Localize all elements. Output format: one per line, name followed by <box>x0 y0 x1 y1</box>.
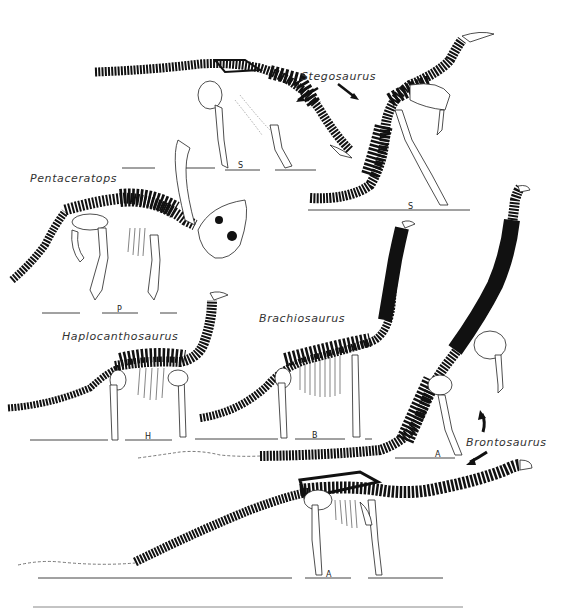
scale-letter-brontosaurus-standing: A <box>326 570 331 579</box>
skeleton-drawing <box>0 0 562 611</box>
scale-letter-pentaceratops: P <box>117 305 122 314</box>
pentaceratops-skeleton <box>12 140 247 313</box>
brontosaurus-skeleton-standing <box>18 460 532 578</box>
scale-letter-haplocanthosaurus: H <box>145 432 151 441</box>
scale-letter-brachiosaurus: B <box>312 431 318 440</box>
label-haplocanthosaurus: Haplocanthosaurus <box>62 330 178 343</box>
scale-letter-brontosaurus-rearing: A <box>435 450 440 459</box>
label-stegosaurus: Stegosaurus <box>301 70 376 83</box>
stegosaurus-skeleton-rearing <box>308 32 494 210</box>
haplocanthosaurus-skeleton <box>8 292 228 440</box>
dinosaur-skeleton-plate: Stegosaurus Pentaceratops Haplocanthosau… <box>0 0 562 611</box>
label-brontosaurus: Brontosaurus <box>466 436 547 449</box>
scale-letter-stegosaurus-rearing: S <box>408 202 413 211</box>
scale-letter-stegosaurus-standing: S <box>238 161 243 170</box>
label-brachiosaurus: Brachiosaurus <box>259 312 345 325</box>
label-pentaceratops: Pentaceratops <box>30 172 117 185</box>
